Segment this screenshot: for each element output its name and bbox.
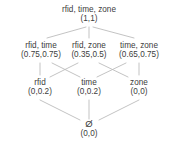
node-label: rfid, time <box>21 41 61 50</box>
node-value: (0.65,0.75) <box>119 50 159 59</box>
node-value: (0.75,0.75) <box>21 50 61 59</box>
node-value: (0,0) <box>130 87 148 96</box>
edge-timezone-time <box>97 63 126 77</box>
edge-rfidzone-zone <box>99 63 128 77</box>
edge-rfidtimezone-timezone <box>93 27 134 38</box>
node-zone[interactable]: zone (0,0) <box>130 78 148 96</box>
empty-set-icon: Ø <box>81 119 98 129</box>
node-rfid-time-zone[interactable]: rfid, time, zone (1,1) <box>62 5 116 23</box>
node-value: (0,0.2) <box>77 87 101 96</box>
node-label: rfid, time, zone <box>62 5 116 14</box>
node-label: rfid, zone <box>71 41 106 50</box>
edge-rfidtime-time <box>52 63 80 77</box>
node-label: zone <box>130 78 148 87</box>
edge-zone-emptyset <box>99 100 139 120</box>
node-rfid[interactable]: rfid (0,0.2) <box>28 78 52 96</box>
node-value: (0.35,0.5) <box>71 50 106 59</box>
edge-rfidzone-rfid <box>50 63 78 77</box>
node-label: rfid <box>28 78 52 87</box>
node-value: (0,0.2) <box>28 87 52 96</box>
edge-rfid-emptyset <box>40 100 80 120</box>
node-value: (1,1) <box>62 14 116 23</box>
node-rfid-time[interactable]: rfid, time (0.75,0.75) <box>21 41 61 59</box>
node-label: time <box>77 78 101 87</box>
node-value: (0,0) <box>81 129 98 138</box>
node-time[interactable]: time (0,0.2) <box>77 78 101 96</box>
node-empty-set[interactable]: Ø (0,0) <box>81 119 98 138</box>
edge-rfidtimezone-rfidtime <box>47 27 86 38</box>
node-label: time, zone <box>119 41 159 50</box>
lattice-diagram: rfid, time, zone (1,1) rfid, time (0.75,… <box>0 0 179 152</box>
node-time-zone[interactable]: time, zone (0.65,0.75) <box>119 41 159 59</box>
node-rfid-zone[interactable]: rfid, zone (0.35,0.5) <box>71 41 106 59</box>
